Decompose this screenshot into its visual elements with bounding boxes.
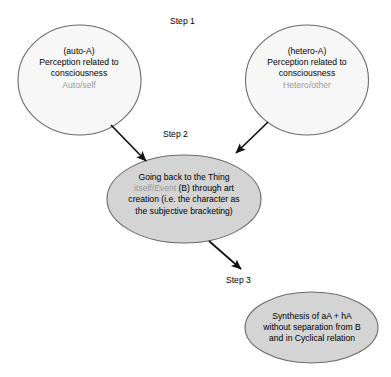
node-step2-shape[interactable] <box>107 155 261 243</box>
diagram-shapes-layer <box>0 0 391 377</box>
diagram-canvas: Step 1 Step 2 Step 3 (auto-A) Perception… <box>0 0 391 377</box>
arrow-step2-to-step3 <box>209 241 241 269</box>
arrow-hetero-to-step2 <box>236 122 268 153</box>
step-3-label: Step 3 <box>226 275 251 286</box>
step-2-label: Step 2 <box>163 129 188 140</box>
arrow-auto-to-step2 <box>111 125 146 161</box>
node-step3-shape[interactable] <box>245 292 378 363</box>
node-hetero-a-shape[interactable] <box>246 25 369 135</box>
step-1-label: Step 1 <box>170 16 195 27</box>
node-auto-a-shape[interactable] <box>18 25 141 135</box>
